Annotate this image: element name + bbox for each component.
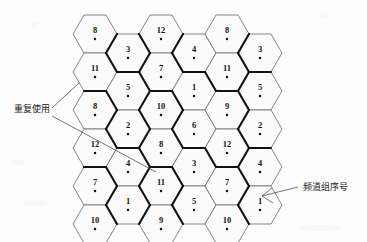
base-station-dot <box>160 38 163 41</box>
hexagon-grid: 8118127103524112710811941635811912710352… <box>73 15 282 242</box>
base-station-dot <box>226 228 229 231</box>
base-station-dot <box>226 76 229 79</box>
cell-number: 11 <box>223 63 231 73</box>
leader-reuse-short <box>52 83 79 108</box>
base-station-dot <box>94 190 97 193</box>
cell-number: 8 <box>93 101 97 111</box>
base-station-dot <box>259 133 262 136</box>
label-channel-group: 频道组序号 <box>303 181 348 192</box>
cell-number: 2 <box>126 120 130 130</box>
base-station-dot <box>259 209 262 212</box>
cell-number: 8 <box>225 25 229 35</box>
cell-number: 1 <box>192 82 196 92</box>
cell-number: 10 <box>91 215 100 225</box>
base-station-dot <box>127 57 130 60</box>
cell-number: 5 <box>258 82 262 92</box>
base-station-dot <box>226 190 229 193</box>
base-station-dot <box>160 114 163 117</box>
cell-number: 8 <box>159 139 163 149</box>
base-station-dot <box>193 171 196 174</box>
cell-number: 10 <box>157 101 166 111</box>
base-station-dot <box>160 228 163 231</box>
base-station-dot <box>94 76 97 79</box>
base-station-dot <box>259 95 262 98</box>
cell-number: 9 <box>159 215 163 225</box>
base-station-dot <box>193 95 196 98</box>
cell-number: 12 <box>223 139 232 149</box>
base-station-dot <box>94 114 97 117</box>
cell-number: 3 <box>258 44 262 54</box>
base-station-dot <box>226 152 229 155</box>
cell-number: 12 <box>91 139 100 149</box>
cell-number: 3 <box>126 44 130 54</box>
cell-number: 5 <box>126 82 130 92</box>
base-station-dot <box>94 38 97 41</box>
base-station-dot <box>259 57 262 60</box>
cell-number: 12 <box>157 25 166 35</box>
base-station-dot <box>160 76 163 79</box>
base-station-dot <box>160 152 163 155</box>
base-station-dot <box>127 209 130 212</box>
cell-number: 11 <box>91 63 99 73</box>
cell-number: 3 <box>192 158 196 168</box>
base-station-dot <box>193 133 196 136</box>
base-station-dot <box>259 171 262 174</box>
base-station-dot <box>127 171 130 174</box>
cell-number: 10 <box>223 215 232 225</box>
cell-number: 5 <box>192 196 196 206</box>
cell-number: 9 <box>225 101 229 111</box>
cell-number: 2 <box>258 120 262 130</box>
base-station-dot <box>94 152 97 155</box>
base-station-dot <box>127 133 130 136</box>
cell-number: 1 <box>126 196 130 206</box>
cell-number: 6 <box>192 120 196 130</box>
base-station-dot <box>226 114 229 117</box>
cell-number: 8 <box>93 25 97 35</box>
cell-number: 11 <box>157 177 165 187</box>
base-station-dot <box>127 95 130 98</box>
base-station-dot <box>193 57 196 60</box>
base-station-dot <box>193 209 196 212</box>
cell-number: 1 <box>258 196 262 206</box>
base-station-dot <box>160 190 163 193</box>
base-station-dot <box>94 228 97 231</box>
label-reuse: 重复使用 <box>14 103 50 114</box>
base-station-dot <box>226 38 229 41</box>
hex-cell-diagram: 8118127103524112710811941635811912710352… <box>0 0 367 242</box>
